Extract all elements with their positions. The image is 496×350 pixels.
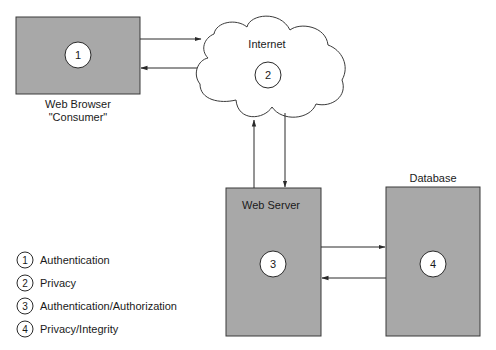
legend-item-4: 4 Privacy/Integrity — [17, 321, 119, 337]
legend-number-4: 4 — [22, 324, 28, 335]
database-node: Database 4 — [386, 172, 480, 336]
security-diagram: 1 Web Browser "Consumer" Internet 2 Web … — [0, 0, 496, 350]
web-server-node: Web Server 3 — [226, 188, 321, 336]
legend: 1 Authentication 2 Privacy 3 Authenticat… — [17, 252, 177, 337]
marker-number-2: 2 — [265, 69, 271, 81]
legend-number-2: 2 — [22, 278, 28, 289]
web-browser-label: Web Browser — [45, 98, 111, 110]
legend-label-3: Authentication/Authorization — [40, 300, 177, 312]
marker-number-3: 3 — [270, 258, 276, 270]
web-browser-node: 1 Web Browser "Consumer" — [16, 17, 140, 123]
legend-label-4: Privacy/Integrity — [40, 323, 119, 335]
web-server-label: Web Server — [242, 199, 300, 211]
web-browser-sublabel: "Consumer" — [49, 111, 108, 123]
legend-number-3: 3 — [22, 301, 28, 312]
internet-label: Internet — [248, 38, 285, 50]
legend-label-1: Authentication — [40, 254, 110, 266]
legend-item-1: 1 Authentication — [17, 252, 110, 268]
legend-item-2: 2 Privacy — [17, 275, 77, 291]
legend-item-3: 3 Authentication/Authorization — [17, 298, 177, 314]
legend-number-1: 1 — [22, 255, 28, 266]
internet-node: Internet 2 — [196, 16, 345, 117]
marker-number-4: 4 — [430, 258, 436, 270]
database-label: Database — [409, 172, 456, 184]
marker-number-1: 1 — [75, 49, 81, 61]
legend-label-2: Privacy — [40, 277, 77, 289]
